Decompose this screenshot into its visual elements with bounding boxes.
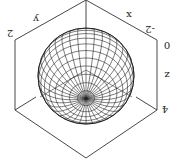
box-edge	[15, 97, 36, 110]
sphere-plot: y x z 2 -2 0 4	[0, 0, 177, 160]
box-edge	[15, 110, 86, 158]
z-axis-label: z	[164, 70, 169, 81]
x-axis-label: x	[126, 10, 132, 21]
sphere-gridline	[86, 99, 115, 116]
sphere-gridline	[49, 43, 86, 98]
sphere-gridline	[57, 99, 86, 116]
box-edge	[86, 110, 157, 158]
tick-upper-right: -2	[145, 24, 155, 35]
y-axis-label: y	[33, 14, 40, 25]
plot-canvas: y x z 2 -2 0 4	[0, 0, 177, 160]
tick-z-4: 4	[162, 104, 168, 115]
box-edge	[136, 97, 157, 110]
tick-upper-left: 2	[7, 28, 13, 39]
wireframe-sphere	[38, 28, 134, 124]
box-edge	[15, 0, 86, 40]
tick-z-0: 0	[164, 40, 170, 51]
sphere-gridline	[86, 43, 123, 98]
